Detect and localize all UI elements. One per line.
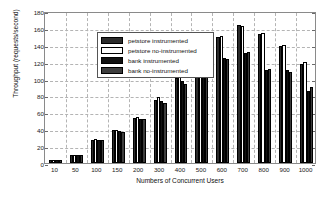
chart-legend: petstore instrumentedpetstore no-instrum… (97, 32, 214, 78)
x-tick-label: 400 (175, 166, 185, 173)
bar (205, 65, 208, 163)
bar (163, 103, 166, 163)
bar-group (70, 13, 83, 163)
y-tick-label: 120 (4, 59, 44, 66)
x-tick-label: 200 (133, 166, 143, 173)
bar-group (300, 13, 313, 163)
legend-label: petstore instrumented (128, 37, 188, 44)
bar-group (279, 13, 292, 163)
legend-item: petstore no-instrumented (101, 45, 210, 55)
y-tick-label: 60 (4, 110, 44, 117)
bar (247, 52, 250, 163)
bar (101, 140, 104, 163)
y-tick-label: 100 (4, 76, 44, 83)
y-tick-label: 0 (4, 161, 44, 168)
x-tick-label: 700 (238, 166, 248, 173)
bar (289, 72, 292, 163)
bar (121, 132, 124, 163)
y-tick-label: 180 (4, 9, 44, 16)
y-tick-mark (312, 165, 315, 166)
legend-item: bank no-instrumented (101, 65, 210, 75)
x-tick-label: 1000 (299, 166, 313, 173)
y-tick-label: 160 (4, 25, 44, 32)
x-tick-label: 500 (196, 166, 206, 173)
x-tick-label: 600 (217, 166, 227, 173)
bar (268, 69, 271, 163)
x-tick-label: 10 (51, 166, 58, 173)
legend-item: petstore instrumented (101, 35, 210, 45)
bar-group (216, 13, 229, 163)
legend-swatch (101, 57, 123, 64)
legend-label: bank instrumented (128, 57, 179, 64)
x-axis-title: Numbers of Concurrent Users (44, 177, 316, 184)
x-tick-label: 50 (72, 166, 79, 173)
x-tick-label: 900 (279, 166, 289, 173)
bar (59, 160, 62, 163)
bar (80, 155, 83, 163)
x-tick-label: 300 (154, 166, 164, 173)
y-tick-label: 20 (4, 144, 44, 151)
bar-group (237, 13, 250, 163)
legend-label: bank no-instrumented (128, 67, 188, 74)
bar-group (49, 13, 62, 163)
y-tick-label: 140 (4, 42, 44, 49)
chart-figure: Throughput (requests/second) Numbers of … (0, 0, 325, 205)
y-tick-label: 40 (4, 127, 44, 134)
x-tick-label: 800 (259, 166, 269, 173)
bar (142, 119, 145, 163)
x-tick-label: 150 (112, 166, 122, 173)
y-tick-label: 80 (4, 93, 44, 100)
x-tick-label: 100 (91, 166, 101, 173)
bar (226, 59, 229, 163)
legend-swatch (101, 47, 123, 54)
y-tick-mark (45, 165, 48, 166)
bar (310, 87, 313, 163)
legend-item: bank instrumented (101, 55, 210, 65)
bar (184, 84, 187, 163)
legend-swatch (101, 37, 123, 44)
bar-group (258, 13, 271, 163)
legend-label: petstore no-instrumented (128, 47, 197, 54)
legend-swatch (101, 67, 123, 74)
plot-area: petstore instrumentedpetstore no-instrum… (44, 12, 316, 164)
